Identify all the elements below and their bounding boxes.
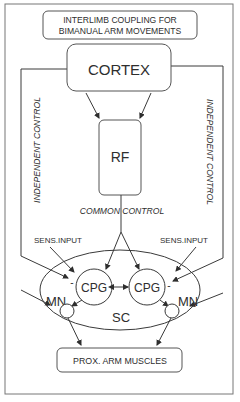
rf-label: RF [111, 149, 130, 165]
cpg-to-mn-arrow-left [72, 300, 82, 306]
rf-node: RF [99, 120, 141, 195]
sens-input-arrow-left [50, 247, 74, 272]
mn-right-node [165, 304, 179, 318]
mn-to-muscles-arrow-right [157, 318, 171, 345]
muscles-node: PROX. ARM MUSCLES [57, 348, 182, 372]
sens-input-label-left: SENS.INPUT [34, 236, 82, 245]
cortex-node: CORTEX [67, 44, 171, 91]
cortex-to-rf-arrow-right [140, 93, 151, 118]
muscles-label: PROX. ARM MUSCLES [73, 356, 167, 366]
cpg-right-label: CPG [134, 281, 160, 295]
independent-control-label-right: INDEPENDENT CONTROL [205, 99, 215, 205]
title-line-1: INTERLIMB COUPLING FOR [63, 15, 177, 25]
cpg-right-node: CPG [129, 269, 165, 305]
sc-label: SC [112, 310, 130, 325]
cortex-label: CORTEX [88, 61, 150, 78]
common-control-label: COMMON CONTROL [80, 206, 165, 216]
interlimb-coupling-diagram: INTERLIMB COUPLING FOR BIMANUAL ARM MOVE… [0, 0, 240, 402]
mn-right-label: MN [178, 294, 198, 309]
sens-input-label-right: SENS.INPUT [160, 236, 208, 245]
cpg-left-node: CPG [76, 269, 112, 305]
cortex-to-rf-arrow-left [86, 93, 99, 118]
mn-to-muscles-arrow-left [68, 318, 81, 345]
independent-path-left [21, 69, 68, 278]
cpg-left-label: CPG [81, 281, 107, 295]
title-box: INTERLIMB COUPLING FOR BIMANUAL ARM MOVE… [43, 11, 197, 39]
title-line-2: BIMANUAL ARM MOVEMENTS [59, 26, 182, 36]
inhibition-sign-right: - [167, 280, 170, 291]
cpg-to-mn-arrow-right [160, 300, 168, 306]
independent-control-label-left: INDEPENDENT CONTROL [32, 97, 42, 203]
mn-left-node [60, 304, 74, 318]
inhibition-sign-left: - [70, 277, 73, 288]
